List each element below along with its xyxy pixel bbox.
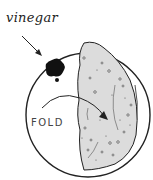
folded-crepe	[78, 42, 137, 170]
plate-illustration	[0, 0, 153, 180]
vinegar-drop	[55, 78, 59, 82]
fold-label: FOLD	[31, 117, 64, 128]
vinegar-label: vinegar	[6, 10, 58, 25]
vinegar-blot	[46, 58, 65, 76]
